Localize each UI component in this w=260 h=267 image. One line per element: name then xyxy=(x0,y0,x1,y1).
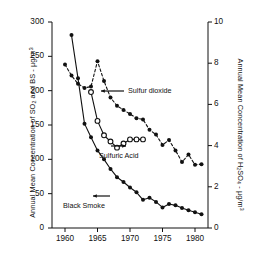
series-line-sulfur-dioxide xyxy=(65,61,202,165)
data-point-sulfuric-acid xyxy=(134,137,139,142)
data-point-sulfur-dioxide xyxy=(109,96,113,100)
plot-area xyxy=(0,0,260,267)
data-point-black-smoke xyxy=(154,200,158,204)
data-point-sulfur-dioxide xyxy=(174,148,178,152)
data-point-sulfur-dioxide xyxy=(200,162,204,166)
data-point-sulfur-dioxide xyxy=(63,63,67,67)
data-point-black-smoke xyxy=(83,122,87,126)
data-point-sulfuric-acid xyxy=(102,133,107,138)
data-point-sulfur-dioxide xyxy=(193,163,197,167)
data-point-black-smoke xyxy=(193,210,197,214)
data-point-black-smoke xyxy=(200,212,204,216)
data-point-sulfur-dioxide xyxy=(128,112,132,116)
data-point-sulfur-dioxide xyxy=(102,79,106,83)
data-point-black-smoke xyxy=(76,76,80,80)
data-point-black-smoke xyxy=(135,190,139,194)
data-point-sulfur-dioxide xyxy=(167,138,171,142)
data-point-sulfuric-acid xyxy=(108,139,113,144)
data-point-black-smoke xyxy=(96,148,100,152)
data-point-black-smoke xyxy=(102,157,106,161)
data-point-black-smoke xyxy=(141,198,145,202)
data-point-sulfur-dioxide xyxy=(180,160,184,164)
data-point-sulfuric-acid xyxy=(128,137,133,142)
chart-figure: Annual Mean Concentration of SO2 and BS … xyxy=(0,0,260,267)
data-point-sulfur-dioxide xyxy=(141,118,145,122)
data-point-black-smoke xyxy=(122,180,126,184)
annotation-arrow-black-smoke-head xyxy=(93,194,97,197)
data-point-sulfur-dioxide xyxy=(83,86,87,90)
data-point-black-smoke xyxy=(167,202,171,206)
data-point-sulfur-dioxide xyxy=(161,143,165,147)
data-point-black-smoke xyxy=(128,185,132,189)
data-point-sulfur-dioxide xyxy=(154,133,158,137)
data-point-sulfuric-acid xyxy=(141,137,146,142)
data-point-sulfur-dioxide xyxy=(70,74,74,78)
data-point-black-smoke xyxy=(89,135,93,139)
data-point-black-smoke xyxy=(109,167,113,171)
data-point-sulfur-dioxide xyxy=(187,153,191,157)
data-point-sulfuric-acid xyxy=(95,118,100,123)
data-point-black-smoke xyxy=(115,175,119,179)
data-point-sulfur-dioxide xyxy=(122,108,126,112)
data-point-sulfuric-acid xyxy=(89,90,94,95)
series-line-black-smoke xyxy=(72,35,202,214)
data-point-black-smoke xyxy=(70,33,74,37)
annotation-arrow-sulfur-dioxide-head xyxy=(101,89,105,92)
data-point-black-smoke xyxy=(174,203,178,207)
data-point-black-smoke xyxy=(161,205,165,209)
data-point-black-smoke xyxy=(187,208,191,212)
data-point-sulfur-dioxide xyxy=(135,116,139,120)
data-point-sulfur-dioxide xyxy=(115,104,119,108)
data-point-sulfur-dioxide xyxy=(89,85,93,89)
data-point-sulfur-dioxide xyxy=(96,59,100,63)
data-point-sulfur-dioxide xyxy=(148,128,152,132)
data-point-black-smoke xyxy=(148,196,152,200)
data-point-black-smoke xyxy=(180,206,184,210)
